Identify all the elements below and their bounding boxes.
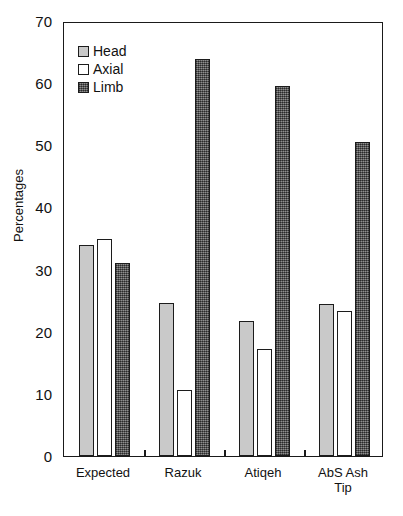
y-tick-label-70: 70 bbox=[18, 14, 52, 29]
y-tick-label-10: 10 bbox=[18, 387, 52, 402]
legend-label-limb: Limb bbox=[93, 80, 123, 94]
bar-razuk-head bbox=[159, 303, 174, 456]
bar-abs-ash-tip-axial bbox=[337, 311, 352, 456]
legend-label-axial: Axial bbox=[93, 62, 123, 76]
x-category-label-abs-ash-tip: AbS AshTip bbox=[303, 465, 383, 495]
legend-swatch-head-icon bbox=[78, 46, 89, 57]
bar-chart: Percentages 010203040506070 ExpectedRazu… bbox=[0, 0, 403, 516]
legend: Head Axial Limb bbox=[78, 44, 126, 94]
bar-razuk-limb bbox=[195, 59, 210, 456]
x-category-label-line: AbS Ash bbox=[303, 465, 383, 480]
bar-expected-limb bbox=[115, 263, 130, 456]
x-tick-2 bbox=[224, 450, 226, 457]
x-category-label-line: Tip bbox=[303, 480, 383, 495]
legend-item-limb: Limb bbox=[78, 80, 126, 94]
legend-item-axial: Axial bbox=[78, 62, 126, 76]
y-tick-label-0: 0 bbox=[18, 449, 52, 464]
y-tick-label-40: 40 bbox=[18, 200, 52, 215]
x-category-label-expected: Expected bbox=[63, 465, 143, 480]
bar-abs-ash-tip-limb bbox=[355, 142, 370, 456]
x-category-label-razuk: Razuk bbox=[143, 465, 223, 480]
x-category-label-line: Expected bbox=[63, 465, 143, 480]
x-tick-1 bbox=[144, 450, 146, 457]
bar-atiqeh-axial bbox=[257, 349, 272, 457]
bar-atiqeh-head bbox=[239, 321, 254, 456]
bar-atiqeh-limb bbox=[275, 86, 290, 456]
y-tick-label-20: 20 bbox=[18, 325, 52, 340]
y-tick-label-50: 50 bbox=[18, 138, 52, 153]
legend-item-head: Head bbox=[78, 44, 126, 58]
legend-swatch-limb-icon bbox=[78, 82, 89, 93]
legend-swatch-axial-icon bbox=[78, 64, 89, 75]
bar-abs-ash-tip-head bbox=[319, 304, 334, 456]
bar-expected-head bbox=[79, 245, 94, 456]
y-tick-label-30: 30 bbox=[18, 263, 52, 278]
x-tick-3 bbox=[304, 450, 306, 457]
x-category-label-atiqeh: Atiqeh bbox=[223, 465, 303, 480]
x-category-label-line: Atiqeh bbox=[223, 465, 303, 480]
x-category-label-line: Razuk bbox=[143, 465, 223, 480]
legend-label-head: Head bbox=[93, 44, 126, 58]
bar-expected-axial bbox=[97, 239, 112, 456]
y-tick-label-60: 60 bbox=[18, 76, 52, 91]
bar-razuk-axial bbox=[177, 390, 192, 456]
